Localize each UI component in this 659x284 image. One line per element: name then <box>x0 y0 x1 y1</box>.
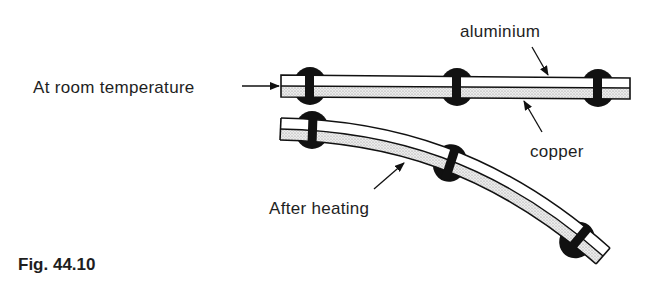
label-room-temperature: At room temperature <box>33 79 195 96</box>
label-copper: copper <box>530 143 584 160</box>
figure-caption: Fig. 44.10 <box>18 256 95 273</box>
straight-strip <box>281 67 630 107</box>
label-after-heating: After heating <box>269 200 369 217</box>
arrow-copper <box>524 101 542 132</box>
bent-strip <box>280 111 610 265</box>
label-aluminium: aluminium <box>460 23 540 40</box>
arrow-aluminium <box>532 47 548 75</box>
arrow-after-heating <box>374 163 404 189</box>
